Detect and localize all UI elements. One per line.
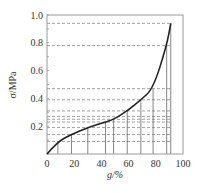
- x-axis-label: g/%: [107, 169, 123, 180]
- y-tick-label: 0.4: [31, 93, 44, 104]
- plot-frame: [47, 15, 183, 154]
- y-tick-label: 0.6: [31, 65, 44, 76]
- y-tick-labels: 0.20.40.60.81.0: [31, 10, 44, 132]
- x-tick-label: 40: [96, 158, 106, 169]
- chart: 020406080100 0.20.40.60.81.0 g/% σ/MPa: [0, 0, 201, 193]
- y-tick-label: 0.8: [31, 37, 44, 48]
- y-axis-label: σ/MPa: [7, 71, 18, 99]
- x-tick-label: 60: [124, 158, 134, 169]
- y-tick-label: 1.0: [31, 10, 44, 21]
- x-tick-label: 20: [69, 158, 79, 169]
- x-tick-label: 80: [151, 158, 161, 169]
- x-tick-label: 100: [176, 158, 191, 169]
- x-tick-labels: 020406080100: [45, 158, 191, 169]
- horizontal-dashed-lines: [47, 23, 171, 141]
- y-tick-label: 0.2: [31, 121, 44, 132]
- x-tick-label: 0: [45, 158, 50, 169]
